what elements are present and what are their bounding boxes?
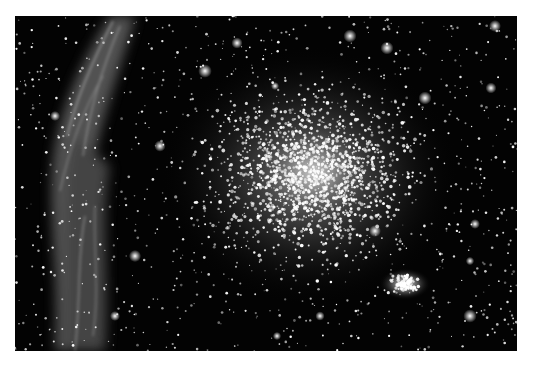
star-cluster-photo: [15, 16, 517, 351]
nebula-filaments: [51, 16, 135, 351]
star-field-graphic: [15, 16, 517, 351]
